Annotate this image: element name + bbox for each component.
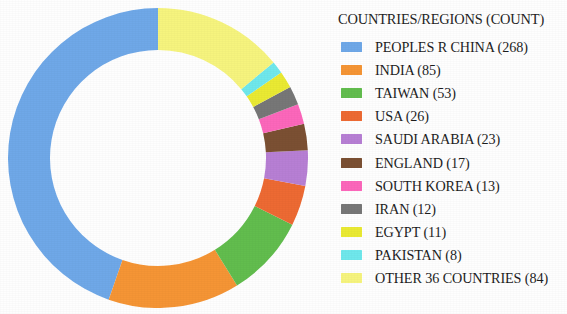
legend-item-label: TAIWAN (53) [375, 85, 456, 101]
legend-item-label: SOUTH KOREA (13) [375, 178, 500, 194]
chart-page: COUNTRIES/REGIONS (COUNT) PEOPLES R CHIN… [0, 0, 567, 314]
legend-item-label: IRAN (12) [375, 201, 436, 217]
donut-chart [8, 8, 308, 308]
legend-item[interactable]: PAKISTAN (8) [336, 244, 567, 267]
legend-item[interactable]: OTHER 36 COUNTRIES (84) [336, 267, 567, 290]
legend-swatch-other-36-countries [341, 273, 362, 283]
legend-swatch-peoples-r-china [341, 42, 362, 52]
legend-item-label: SAUDI ARABIA (23) [375, 131, 500, 147]
legend-swatch-egypt [341, 227, 362, 237]
legend-item-label: OTHER 36 COUNTRIES (84) [375, 270, 548, 286]
legend-item-list: PEOPLES R CHINA (268)INDIA (85)TAIWAN (5… [336, 35, 567, 290]
chart-legend: COUNTRIES/REGIONS (COUNT) PEOPLES R CHIN… [336, 11, 567, 307]
legend-item[interactable]: ENGLAND (17) [336, 151, 567, 174]
legend-swatch-england [341, 158, 362, 168]
legend-item[interactable]: EGYPT (11) [336, 221, 567, 244]
legend-item-label: EGYPT (11) [375, 224, 446, 240]
donut-segment-india[interactable] [109, 250, 237, 308]
legend-item[interactable]: SAUDI ARABIA (23) [336, 128, 567, 151]
legend-item[interactable]: USA (26) [336, 105, 567, 128]
legend-swatch-south-korea [341, 181, 362, 191]
legend-item-label: ENGLAND (17) [375, 155, 470, 171]
legend-swatch-india [341, 65, 362, 75]
donut-chart-area [0, 0, 330, 314]
legend-title: COUNTRIES/REGIONS (COUNT) [338, 11, 567, 28]
legend-item[interactable]: TAIWAN (53) [336, 81, 567, 104]
legend-swatch-pakistan [341, 250, 362, 260]
donut-segment-peoples-r-china[interactable] [8, 8, 158, 300]
donut-segment-group [8, 8, 308, 308]
legend-item[interactable]: IRAN (12) [336, 197, 567, 220]
legend-item[interactable]: SOUTH KOREA (13) [336, 174, 567, 197]
legend-item-label: USA (26) [375, 108, 429, 124]
legend-item-label: PAKISTAN (8) [375, 247, 462, 263]
legend-item[interactable]: INDIA (85) [336, 58, 567, 81]
legend-item[interactable]: PEOPLES R CHINA (268) [336, 35, 567, 58]
legend-swatch-taiwan [341, 88, 362, 98]
legend-swatch-iran [341, 204, 362, 214]
legend-item-label: INDIA (85) [375, 62, 441, 78]
legend-item-label: PEOPLES R CHINA (268) [375, 39, 528, 55]
legend-swatch-saudi-arabia [341, 134, 362, 144]
legend-swatch-usa [341, 111, 362, 121]
